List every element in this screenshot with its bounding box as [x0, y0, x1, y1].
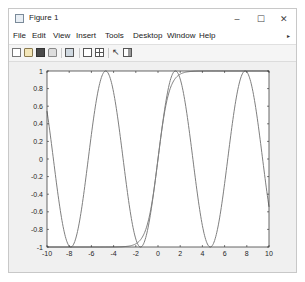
x-tick-label: 6 — [223, 250, 227, 257]
y-tick-label: 0.2 — [33, 138, 43, 145]
y-tick-label: -0.6 — [31, 208, 43, 215]
y-tick-label: -0.4 — [31, 191, 43, 198]
y-tick-label: -1 — [37, 244, 43, 251]
y-tick-label: -0.8 — [31, 226, 43, 233]
plot-canvas[interactable]: -10-8-6-4-20246810-1-0.8-0.6-0.4-0.200.2… — [0, 0, 305, 282]
x-tick-label: 8 — [245, 250, 249, 257]
y-tick-label: 0.6 — [33, 103, 43, 110]
x-tick-label: -2 — [133, 250, 139, 257]
y-tick-label: 0.8 — [33, 85, 43, 92]
x-tick-label: -4 — [110, 250, 116, 257]
x-tick-label: -6 — [88, 250, 94, 257]
x-tick-label: 2 — [178, 250, 182, 257]
x-tick-label: 0 — [156, 250, 160, 257]
x-tick-label: 10 — [265, 250, 273, 257]
x-tick-label: 4 — [200, 250, 204, 257]
y-tick-label: 1 — [39, 68, 43, 75]
x-tick-label: -10 — [42, 250, 52, 257]
x-tick-label: -8 — [66, 250, 72, 257]
y-tick-label: 0 — [39, 156, 43, 163]
y-tick-label: 0.4 — [33, 120, 43, 127]
y-tick-label: -0.2 — [31, 173, 43, 180]
